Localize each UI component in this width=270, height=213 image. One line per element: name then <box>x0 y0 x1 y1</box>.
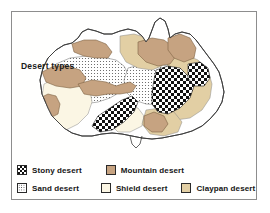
stony-desert-swatch-icon <box>17 165 27 175</box>
legend-item-sand-desert[interactable]: Sand desert <box>17 180 79 196</box>
claypan-desert-swatch-icon <box>181 183 191 193</box>
legend-row: Stony desert Mountain desert <box>12 162 258 178</box>
map-legend: Stony desert Mountain desert Sand desert… <box>12 158 258 200</box>
legend-item-label: Mountain desert <box>121 166 184 175</box>
desert-types-figure: Desert types Stony desert Mountain deser… <box>0 0 270 213</box>
legend-item-label: Claypan desert <box>196 184 255 193</box>
legend-item-label: Shield desert <box>116 184 168 193</box>
legend-item-mountain-desert[interactable]: Mountain desert <box>106 162 184 178</box>
sand-desert-swatch-icon <box>17 183 27 193</box>
legend-item-shield-desert[interactable]: Shield desert <box>101 180 168 196</box>
legend-item-label: Stony desert <box>32 166 82 175</box>
legend-row: Sand desert Shield desert Claypan desert <box>12 180 258 196</box>
australia-map <box>12 12 258 158</box>
legend-item-claypan-desert[interactable]: Claypan desert <box>181 180 255 196</box>
legend-item-stony-desert[interactable]: Stony desert <box>17 162 82 178</box>
map-title: Desert types <box>21 61 74 71</box>
region-mountain-desert-southwest-coast <box>39 94 60 118</box>
shield-desert-swatch-icon <box>101 183 111 193</box>
figure-frame: Desert types Stony desert Mountain deser… <box>11 11 257 200</box>
legend-item-label: Sand desert <box>32 184 79 193</box>
map-stage: Desert types <box>12 12 258 158</box>
mountain-desert-swatch-icon <box>106 165 116 175</box>
